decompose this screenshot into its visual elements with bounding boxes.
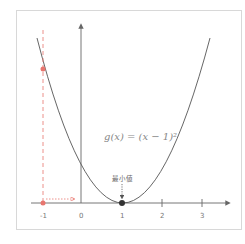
minimum-point [119, 200, 125, 206]
tick-label-2: 2 [160, 212, 164, 220]
minimum-label: 最小値 [112, 174, 133, 183]
tick-label-1: 1 [120, 212, 124, 220]
point-on-axis [41, 201, 46, 206]
function-label: g(x) = (x − 1)² [104, 131, 177, 142]
tick-label-3: 3 [200, 212, 204, 220]
tick-label-neg1: -1 [40, 212, 47, 220]
parabola-diagram: -1 0 1 2 3 最小値 g(x) = (x − 1)² [0, 0, 245, 244]
tick-label-0: 0 [79, 212, 83, 220]
point-on-curve [41, 67, 46, 72]
